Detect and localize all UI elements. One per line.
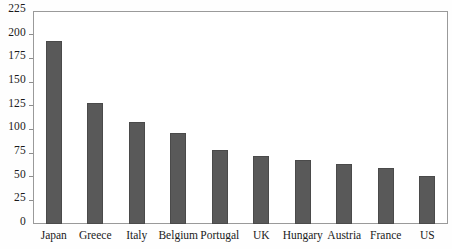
bar-rect: [46, 41, 62, 224]
bar-rect: [87, 103, 103, 224]
y-tick-label: 225: [8, 3, 26, 14]
bar: [336, 164, 352, 224]
bar-rect: [378, 168, 394, 224]
bar: [129, 122, 145, 224]
bar: [212, 150, 228, 224]
bar-rect: [129, 122, 145, 224]
x-tick-label: Italy: [126, 228, 147, 242]
x-axis: JapanGreeceItalyBelgiumPortugalUKHungary…: [33, 226, 448, 249]
x-tick-label: Belgium: [158, 228, 198, 242]
x-tick-label: Greece: [79, 228, 112, 242]
y-tick-label: 25: [14, 192, 26, 203]
bar: [46, 41, 62, 224]
x-tick-label: Japan: [41, 228, 67, 242]
y-tick-label: 150: [8, 74, 26, 85]
bar: [253, 156, 269, 224]
y-tick-label: 125: [8, 98, 26, 109]
bar-rect: [419, 176, 435, 224]
x-tick-label: UK: [253, 228, 270, 242]
x-tick-label: Hungary: [283, 228, 323, 242]
x-tick-label: France: [370, 228, 401, 242]
y-tick-label: 100: [8, 121, 26, 132]
bar-rect: [295, 160, 311, 224]
bar: [419, 176, 435, 224]
bar: [378, 168, 394, 224]
y-axis: 0255075100125150175200225: [0, 0, 33, 249]
bars-layer: [33, 11, 448, 224]
bar-rect: [336, 164, 352, 224]
y-tick-label: 200: [8, 27, 26, 38]
bar: [170, 133, 186, 224]
y-tick-label: 0: [20, 216, 26, 227]
bar-rect: [253, 156, 269, 224]
y-tick-label: 175: [8, 50, 26, 61]
x-tick-label: Austria: [327, 228, 361, 242]
x-tick-label: Portugal: [200, 228, 239, 242]
bar: [87, 103, 103, 224]
bar-rect: [212, 150, 228, 224]
bar: [295, 160, 311, 224]
x-tick-label: US: [420, 228, 435, 242]
bar-rect: [170, 133, 186, 224]
bar-chart: 0255075100125150175200225 JapanGreeceIta…: [0, 0, 452, 249]
y-tick-label: 75: [14, 145, 26, 156]
y-tick-label: 50: [14, 169, 26, 180]
